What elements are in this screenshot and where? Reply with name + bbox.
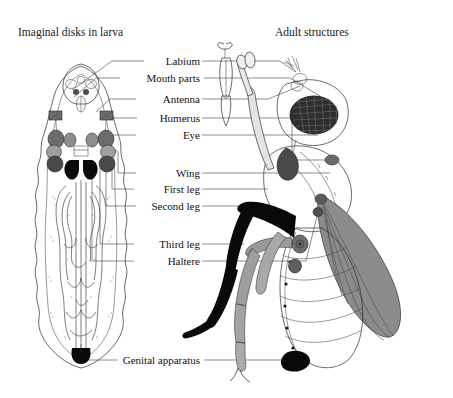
imaginal-disk-diagram: Imaginal disks in larva Adult structures xyxy=(0,0,453,398)
wing-hinge xyxy=(315,194,327,204)
label-humerus: Humerus xyxy=(160,112,200,124)
label-wing: Wing xyxy=(176,167,200,179)
label-second-leg: Second leg xyxy=(151,200,200,212)
label-haltere: Haltere xyxy=(168,255,200,267)
canvas-background xyxy=(0,0,453,398)
label-mouth-parts: Mouth parts xyxy=(147,72,200,84)
label-genital-apparatus: Genital apparatus xyxy=(123,354,200,366)
heading-right: Adult structures xyxy=(275,26,349,38)
label-antenna: Antenna xyxy=(163,93,200,105)
heading-left: Imaginal disks in larva xyxy=(18,26,123,39)
label-labium: Labium xyxy=(166,55,201,67)
label-third-leg: Third leg xyxy=(159,238,200,250)
adult-humerus xyxy=(325,155,339,165)
leg-trochanter-joint xyxy=(289,259,302,273)
diagram-canvas: Imaginal disks in larva Adult structures xyxy=(0,0,453,398)
label-eye: Eye xyxy=(183,129,200,141)
label-first-leg: First leg xyxy=(164,183,201,195)
adult-haltere xyxy=(313,208,323,217)
